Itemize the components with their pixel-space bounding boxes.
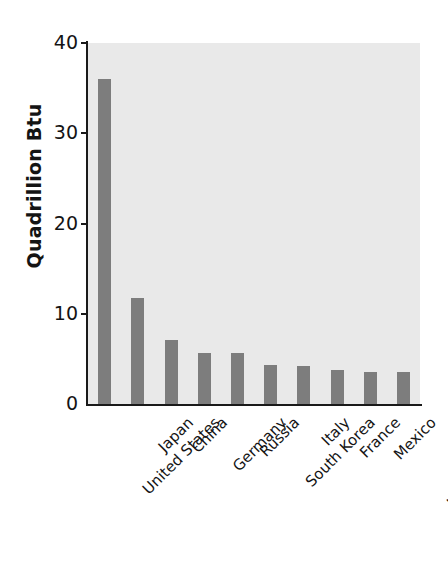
y-tick-label: 20: [38, 214, 78, 233]
bar: [331, 370, 344, 404]
x-tick-label: United Kingdom: [445, 415, 448, 511]
y-axis-tick-labels: 010203040: [30, 0, 78, 430]
y-tick-mark: [81, 223, 88, 225]
y-tick-label: 0: [38, 394, 78, 413]
x-axis-line: [86, 404, 422, 406]
y-tick-mark: [81, 42, 88, 44]
bar-chart: Quadrillion Btu 010203040 United StatesJ…: [0, 0, 448, 566]
bar: [198, 353, 211, 404]
bar: [98, 79, 111, 404]
bar: [165, 340, 178, 404]
y-tick-label: 30: [38, 123, 78, 142]
y-tick-label: 10: [38, 304, 78, 323]
x-tick-label: China: [190, 415, 231, 456]
bar: [297, 366, 310, 404]
bar: [131, 298, 144, 404]
y-tick-mark: [81, 313, 88, 315]
bar: [397, 372, 410, 404]
bar: [231, 353, 244, 404]
bar: [264, 365, 277, 404]
bar: [364, 372, 377, 404]
y-tick-label: 40: [38, 33, 78, 52]
y-tick-mark: [81, 132, 88, 134]
